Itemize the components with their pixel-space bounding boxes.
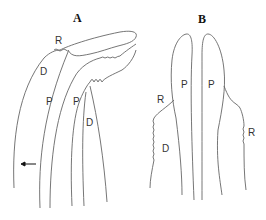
label-a-r: R [55, 36, 62, 46]
panel-label-a: A [73, 12, 82, 24]
panel-b-left-p [171, 34, 194, 200]
label-b-p1: P [181, 80, 188, 90]
panel-b-right-p [202, 34, 225, 200]
label-b-r2: R [248, 128, 255, 138]
label-b-r1: R [157, 95, 164, 105]
label-b-p2: P [208, 80, 215, 90]
panel-a-innermost-2 [90, 86, 107, 202]
panel-label-b: B [198, 13, 206, 25]
panel-a-innermost-1 [83, 92, 86, 206]
diagram-canvas [0, 0, 266, 220]
panel-a-inner-layer [71, 50, 136, 206]
left-arrow-icon [21, 162, 36, 166]
label-b-d: D [162, 144, 169, 154]
label-a-d1: D [40, 67, 47, 77]
label-a-d2: D [86, 118, 93, 128]
label-a-p2: P [73, 97, 80, 107]
panel-b-right-r-layer [224, 86, 246, 190]
label-a-p1: P [46, 97, 53, 107]
